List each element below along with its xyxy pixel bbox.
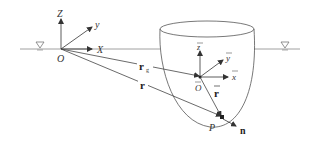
floating-body [160, 21, 255, 127]
body-x-label: x [231, 72, 236, 82]
vector-r-label: r [140, 79, 145, 91]
diagram-canvas: Z y X O r g r z y x O r [0, 0, 325, 144]
global-z-label: Z [57, 8, 63, 19]
body-y-label: y [225, 53, 230, 63]
point-p-marker [220, 115, 224, 119]
diagram-svg: Z y X O r g r z y x O r [0, 0, 325, 144]
vector-r-g-label: r [139, 60, 144, 72]
global-y-label: y [94, 19, 100, 30]
body-frame [199, 51, 229, 79]
point-p-label: P [208, 122, 215, 133]
vector-r-g [61, 49, 199, 76]
vector-r-g-subscript: g [146, 67, 149, 73]
vector-r-bar-label: r [214, 87, 219, 99]
body-y-axis [200, 60, 223, 77]
global-origin-label: O [57, 53, 64, 64]
global-frame [61, 19, 92, 49]
body-origin-label: O [195, 83, 202, 93]
normal-vector-label: n [240, 125, 246, 136]
global-y-axis [61, 27, 92, 49]
body-z-label: z [196, 43, 201, 52]
global-x-label: X [96, 44, 104, 55]
